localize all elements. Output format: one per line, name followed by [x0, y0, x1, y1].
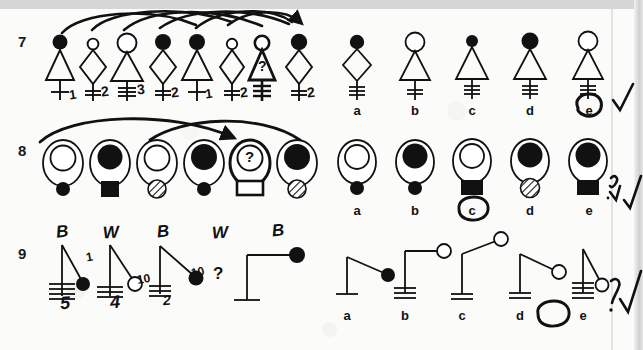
row-9-item-2-note-number: 10 — [136, 271, 152, 287]
scan-right-edge-band — [634, 0, 643, 350]
row-9-question-slot: ? — [213, 264, 223, 284]
row-7-item-3-tick-count: 3 — [136, 81, 145, 98]
row-8-option-label-d[interactable]: d — [520, 203, 540, 218]
row-9-option-label-e[interactable]: e — [573, 308, 593, 323]
row-8-item-1 — [43, 140, 83, 196]
row-8-option-b — [396, 140, 434, 195]
row-9-item-2-note-letter: W — [102, 222, 119, 243]
row-9-item-1-number-below: 5 — [59, 293, 70, 315]
row-9-item-1-note-letter: B — [55, 221, 70, 242]
row-9-item-2 — [97, 245, 142, 297]
row-8-item-6 — [277, 140, 317, 198]
row-7-option-label-c[interactable]: c — [462, 103, 482, 118]
row-9-option-a — [336, 257, 395, 294]
row-7-option-e — [573, 32, 603, 100]
row-9-item-3-number-below: 2 — [162, 292, 171, 309]
row-7-item-5-tick-count: 1 — [204, 86, 213, 102]
row-9-selected-answer-circle — [538, 301, 569, 326]
row-9-option-label-b[interactable]: b — [395, 308, 415, 323]
row-8-item-5-question-overlay: ? — [245, 148, 254, 165]
row-7-option-label-d[interactable]: d — [520, 103, 540, 118]
row-7-option-label-a[interactable]: a — [347, 103, 367, 118]
row-8-option-a — [338, 140, 376, 195]
row-8-option-label-b[interactable]: b — [405, 203, 425, 218]
row-7-item-7-question-overlay: ? — [258, 58, 267, 74]
row-number-8: 8 — [18, 142, 26, 159]
row-8-option-c — [453, 139, 491, 195]
row-9-option-c — [451, 232, 508, 299]
row-number-9: 9 — [18, 245, 26, 262]
paper-texture-noise — [0, 9, 634, 350]
row-9-option-label-d[interactable]: d — [510, 308, 530, 323]
row-7-item-1-tick-count: 1 — [68, 87, 77, 103]
scan-top-edge-band — [0, 0, 643, 9]
row-8-arrow-links — [40, 119, 300, 142]
row-8-option-e — [569, 139, 607, 195]
row-8-option-label-a[interactable]: a — [347, 203, 367, 218]
row-9-option-d — [509, 254, 566, 298]
row-7-check-mark — [613, 84, 633, 110]
figures-vector-layer — [0, 0, 643, 350]
row-8-item-4 — [184, 140, 224, 196]
row-9-item-2-number-below: 4 — [109, 292, 120, 314]
row-9-item-1-note-number: 1 — [85, 250, 94, 265]
row-8-option-d — [511, 139, 549, 198]
row-9-item-4-note-letter: W — [211, 223, 228, 244]
row-7-option-label-e[interactable]: e — [579, 103, 599, 118]
row-9-item-5 — [234, 247, 305, 300]
scanned-worksheet-page: 7 — [0, 0, 643, 350]
row-7-option-b — [400, 33, 430, 101]
row-8-option-label-c[interactable]: c — [462, 203, 482, 218]
row-number-7: 7 — [18, 33, 26, 50]
row-9-item-3-note-letter: B — [156, 221, 170, 242]
row-8-item-3 — [137, 140, 177, 198]
row-7-option-label-b[interactable]: b — [405, 103, 425, 118]
row-9-option-label-c[interactable]: c — [452, 308, 472, 323]
row-9-item-5-note-letter: B — [271, 220, 285, 241]
row-9-item-3-note-number: 10 — [190, 264, 206, 280]
row-8-item-2 — [90, 140, 130, 197]
row-7-option-d — [514, 33, 546, 100]
row-9-option-b — [394, 244, 451, 298]
row-9-option-e — [572, 249, 609, 298]
row-7-option-c — [456, 35, 488, 99]
row-7-item-2-tick-count: 2 — [100, 83, 109, 100]
row-7-item-6-tick-count: 2 — [239, 84, 248, 101]
row-9-option-label-a[interactable]: a — [337, 308, 357, 323]
row-7-item-8-tick-count: 2 — [306, 84, 315, 101]
row-7-item-4-tick-count: 2 — [170, 84, 179, 101]
row-7-option-a — [343, 35, 371, 100]
row-9-item-1 — [49, 245, 90, 299]
row-8-option-label-e[interactable]: e — [579, 203, 599, 218]
row-7-arrow-links — [62, 11, 300, 33]
scan-page-fold-line — [611, 9, 613, 350]
